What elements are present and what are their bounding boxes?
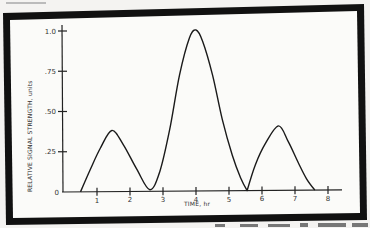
x-tick-label: 3 (161, 196, 165, 204)
chart-figure: 0.25.50.751.012345678 TIME, hr RELATIVE … (0, 0, 370, 228)
cropped-header-fragment (6, 2, 46, 4)
x-axis-title: TIME, hr (183, 200, 210, 207)
y-axis-title: RELATIVE SIGNAL STRENGTH, units (26, 80, 33, 192)
y-tick-label: .50 (45, 108, 56, 116)
x-tick-label: 2 (128, 196, 132, 204)
y-tick-label: .75 (45, 68, 56, 76)
cropped-caption-fragment (215, 223, 368, 227)
x-tick-label: 8 (326, 195, 330, 203)
y-tick-label: 1.0 (45, 28, 56, 36)
y-tick-label: .25 (45, 148, 56, 156)
x-tick-label: 6 (260, 195, 265, 203)
x-tick-label: 1 (95, 197, 99, 205)
y-tick-label: 0 (55, 189, 59, 197)
x-tick-label: 5 (227, 196, 231, 204)
x-tick-label: 7 (293, 195, 297, 203)
